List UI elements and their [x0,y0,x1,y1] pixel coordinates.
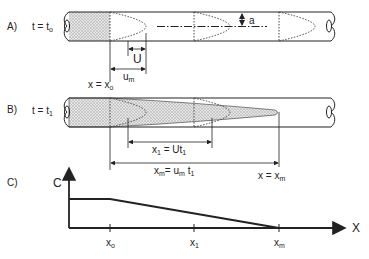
panel-b-pipe [64,98,335,170]
x0-position-label: x = xo [88,80,113,91]
panel-b-time: t = t1 [32,106,53,117]
u-label: U [133,53,142,65]
concentration-curve [69,199,279,228]
velocity-profile-a1 [110,12,146,41]
panel-b-letter: B) [7,105,17,115]
xm-label: xm= um t1 [154,166,194,177]
x-axis-label: X [352,222,360,234]
radius-label: a [249,16,255,26]
y-axis-label: C [53,177,62,189]
panel-c-letter: C) [7,178,18,188]
panel-c-graph [69,170,343,232]
tick-x1: x1 [190,238,199,249]
um-label: um [123,72,134,83]
tick-x0: xo [106,238,115,249]
panel-a-letter: A) [7,22,17,32]
panel-a-time: t = to [32,22,53,33]
velocity-profile-a3 [279,12,315,41]
xm-position-label: x = xm [258,171,285,182]
fluid-slug-b [69,98,278,127]
x1-label: x1 = Ut1 [152,145,186,156]
diagram-canvas [0,0,369,259]
fluid-slug-a [69,12,110,41]
tick-xm: xm [274,238,285,249]
panel-a-pipe [64,12,335,82]
